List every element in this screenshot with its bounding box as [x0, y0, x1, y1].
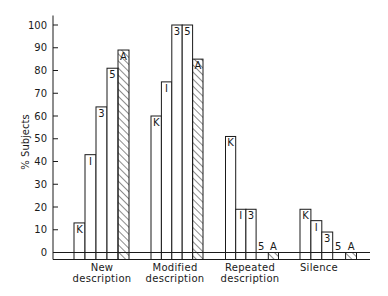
bar-group-new: KI35A — [74, 50, 129, 259]
y-tick-label: 10 — [34, 224, 47, 235]
category-label-line2: description — [73, 273, 132, 284]
bar-label: 3 — [324, 233, 330, 244]
bar-5 — [107, 68, 118, 259]
category-label: New — [91, 262, 114, 273]
category-label-line2: description — [146, 273, 205, 284]
y-tick-label: 40 — [34, 156, 47, 167]
chart-canvas: 0102030405060708090100 KI35AKI35AKI35AKI… — [0, 0, 388, 296]
bar-i — [161, 82, 171, 260]
bar-label: A — [348, 241, 355, 252]
bar-label: 5 — [184, 26, 190, 37]
bars: KI35AKI35AKI35AKI35A — [74, 25, 357, 260]
category-label: Silence — [300, 262, 338, 273]
bar-label: K — [76, 224, 83, 235]
bar-chart: 0102030405060708090100 KI35AKI35AKI35AKI… — [0, 0, 388, 296]
bar-label: I — [239, 210, 242, 221]
bar-a — [118, 50, 129, 259]
bar-k — [151, 116, 161, 260]
bar-k — [226, 136, 236, 259]
y-tick-label: 70 — [34, 88, 47, 99]
bar-label: K — [153, 117, 160, 128]
bar-label: A — [194, 60, 201, 71]
y-tick-label: 90 — [34, 42, 47, 53]
bar-group-repeated: KI35A — [226, 136, 279, 259]
y-tick-label: 20 — [34, 202, 47, 213]
bar-label: 3 — [248, 210, 254, 221]
bar-label: A — [270, 241, 277, 252]
bar-label: 5 — [258, 241, 264, 252]
bar-a-stub — [268, 253, 278, 260]
bar-label: 5 — [335, 241, 341, 252]
bar-i — [85, 155, 96, 260]
y-tick-label: 100 — [28, 20, 47, 31]
y-axis-title: % Subjects — [20, 114, 31, 169]
bar-label: K — [302, 210, 309, 221]
category-label-line2: description — [221, 273, 280, 284]
category-labels: NewdescriptionModifieddescriptionRepeate… — [73, 262, 339, 284]
bar-5 — [182, 25, 192, 260]
bar-label: 3 — [174, 26, 180, 37]
category-label: Repeated — [225, 262, 275, 273]
bar-a — [193, 59, 203, 259]
y-tick-label: 50 — [34, 133, 47, 144]
bar-label: I — [165, 83, 168, 94]
bar-label: K — [227, 137, 234, 148]
bar-label: I — [89, 156, 92, 167]
bar-group-modified: KI35A — [151, 25, 203, 260]
bar-label: I — [315, 222, 318, 233]
bar-a-stub — [346, 253, 357, 260]
bar-label: 5 — [109, 69, 115, 80]
bar-label: 3 — [98, 108, 104, 119]
bar-label: A — [120, 51, 127, 62]
bar-3 — [96, 107, 107, 260]
y-axis: 0102030405060708090100 — [28, 16, 58, 260]
bar-group-silence: KI35A — [300, 209, 357, 259]
y-tick-label: 80 — [34, 65, 47, 76]
category-label: Modified — [152, 262, 197, 273]
y-tick-label: 30 — [34, 179, 47, 190]
bar-3 — [172, 25, 182, 260]
y-tick-label: 60 — [34, 111, 47, 122]
y-tick-label: 0 — [41, 247, 47, 258]
